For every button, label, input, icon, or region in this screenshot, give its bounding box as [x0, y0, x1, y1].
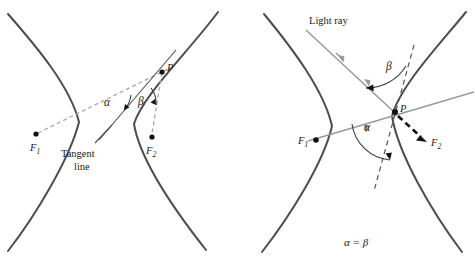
tangent-line-diagram: α β F1 F2 P Tangent line: [0, 0, 238, 267]
hyperbola-reflective-property-figure: α β F1 F2 P Tangent line: [0, 0, 475, 267]
normal-line-through-p: [374, 45, 414, 191]
incoming-light-ray: [306, 30, 394, 112]
light-ray-label: Light ray: [309, 15, 349, 26]
hyperbola-right-branch: [392, 12, 466, 252]
focus1-label: F1: [29, 142, 40, 156]
focus2-label: F2: [145, 145, 156, 159]
focus2-label: F2: [430, 137, 441, 151]
point-p-label: P: [166, 62, 174, 73]
point-p-dot: [159, 69, 164, 74]
tangent-line-label-row2: line: [74, 161, 90, 172]
focus1-dot: [33, 131, 38, 136]
beta-arrowhead: [151, 99, 156, 105]
reflected-ray-p-to-f2: [398, 116, 421, 137]
hyperbola-left-branch: [262, 14, 332, 252]
light-ray-reflection-diagram: β α F1 F2 P Light ray α = β: [238, 0, 475, 267]
alpha-label: α: [104, 96, 111, 108]
alpha-equals-beta-caption: α = β: [344, 236, 369, 248]
tangent-label-leader: [95, 125, 112, 143]
alpha-label: α: [364, 121, 371, 133]
alpha-arrowhead: [386, 152, 392, 160]
point-p-label: P: [399, 103, 407, 114]
tangent-line-label-row1: Tangent: [61, 148, 95, 159]
focus1-dot: [313, 137, 319, 143]
hyperbola-right-branch: [134, 12, 218, 250]
alpha-arc: [352, 124, 390, 160]
focus1-label: F1: [297, 135, 308, 149]
focal-ray-f1-through-p: [308, 92, 474, 141]
point-p-dot: [392, 109, 398, 115]
beta-label: β: [385, 60, 392, 73]
beta-label: β: [137, 95, 144, 108]
hyperbola-left-branch: [8, 14, 79, 251]
focus2-dot: [149, 134, 154, 139]
